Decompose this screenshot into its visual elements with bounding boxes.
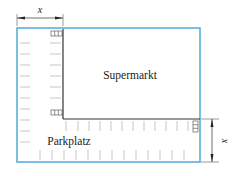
left-outer-parking-ticks bbox=[20, 43, 30, 142]
parking-label: Parkplatz bbox=[47, 135, 90, 148]
bottom-row-parking-ticks bbox=[40, 150, 184, 160]
right-dimension: x bbox=[201, 119, 231, 162]
cart-symbol-icon bbox=[51, 31, 62, 36]
upper-row-parking-ticks bbox=[66, 121, 188, 131]
arrow-down-icon bbox=[211, 154, 214, 162]
dim-top-label: x bbox=[37, 4, 43, 15]
top-dimension: x bbox=[17, 4, 63, 26]
building-label: Supermarkt bbox=[103, 69, 157, 82]
cart-symbol-icon bbox=[193, 121, 198, 132]
left-inner-parking-ticks bbox=[50, 43, 61, 98]
cart-symbol-icon bbox=[51, 110, 62, 115]
parking-lot-boundary bbox=[17, 28, 200, 162]
dim-right-label: x bbox=[220, 138, 231, 144]
arrow-up-icon bbox=[211, 119, 214, 127]
arrow-right-icon bbox=[55, 17, 63, 20]
supermarket-parking-diagram: x bbox=[0, 0, 233, 176]
arrow-left-icon bbox=[17, 17, 25, 20]
